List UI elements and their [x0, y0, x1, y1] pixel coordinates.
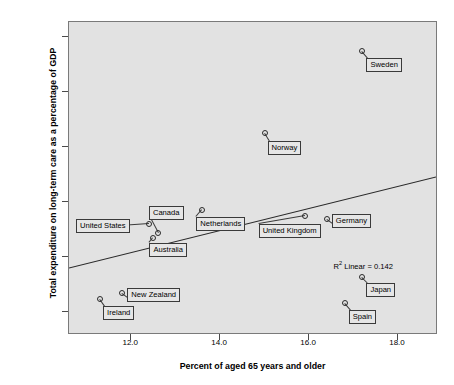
data-point-label[interactable]: Australia	[149, 243, 187, 257]
data-point[interactable]	[342, 300, 348, 306]
data-point[interactable]	[150, 235, 156, 241]
data-point[interactable]	[302, 213, 308, 219]
data-point[interactable]	[155, 230, 161, 236]
data-point-label[interactable]: Netherlands	[196, 217, 245, 231]
data-point[interactable]	[324, 216, 330, 222]
data-point[interactable]	[146, 221, 152, 227]
data-point[interactable]	[262, 130, 268, 136]
data-point-label[interactable]: Norway	[268, 141, 302, 155]
data-point[interactable]	[359, 48, 365, 54]
r-squared-annotation: R2 Linear = 0.142	[334, 260, 394, 271]
data-point-label[interactable]: United Kingdom	[259, 224, 321, 238]
data-point-label[interactable]: Sweden	[366, 58, 401, 72]
data-point[interactable]	[97, 296, 103, 302]
data-point-label[interactable]: Canada	[149, 206, 184, 220]
data-point-label[interactable]: Spain	[349, 310, 376, 324]
x-axis-title: Percent of aged 65 years and older	[68, 361, 437, 371]
data-point-label[interactable]: New Zealand	[127, 288, 180, 302]
x-axis-tick-mark	[219, 334, 220, 340]
y-axis-title: Total expenditure on long-term care as a…	[48, 8, 58, 338]
data-point-label[interactable]: United States	[76, 219, 130, 233]
data-point-label[interactable]: Japan	[366, 283, 395, 297]
data-point-label[interactable]: Ireland	[103, 306, 134, 320]
x-axis-tick-mark	[397, 334, 398, 340]
data-point[interactable]	[199, 207, 205, 213]
data-point-label[interactable]: Germany	[332, 214, 371, 228]
x-axis-tick-mark	[308, 334, 309, 340]
scatter-chart-figure: Total expenditure on long-term care as a…	[0, 0, 454, 385]
plot-area: SwedenNorwayNetherlandsUnited KingdomGer…	[68, 21, 437, 334]
x-axis-tick-mark	[130, 334, 131, 340]
label-leader-line	[258, 215, 304, 224]
